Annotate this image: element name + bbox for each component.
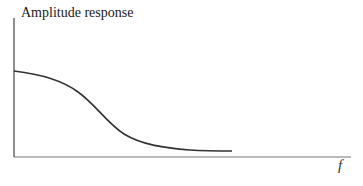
amplitude-response-figure: Amplitude response f xyxy=(0,0,363,186)
y-axis-label: Amplitude response xyxy=(21,5,133,21)
x-axis-label: f xyxy=(338,157,342,174)
plot-area xyxy=(0,0,363,186)
amplitude-curve xyxy=(14,71,232,151)
